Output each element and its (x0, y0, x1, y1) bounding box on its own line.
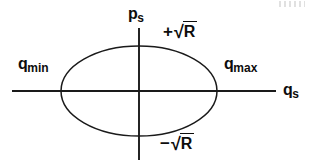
phase-space-diagram: ps qs qmin qmax +√R −√R (0, 0, 309, 166)
scan-artifact (279, 1, 305, 7)
minus-sqrt-r-argument: R (180, 133, 195, 152)
vertical-axis-label-subscript: s (137, 11, 144, 25)
plus-sign: + (163, 22, 173, 41)
q-max-label: qmax (224, 56, 257, 74)
vertical-axis-label: ps (128, 6, 144, 24)
horizontal-axis-label: qs (283, 82, 299, 100)
diagram-canvas (0, 0, 309, 166)
plus-sqrt-r-argument: R (183, 21, 198, 40)
plus-sqrt-r-label: +√R (163, 22, 197, 40)
minus-sqrt-r-label: −√R (160, 134, 194, 152)
q-min-label-subscript: min (27, 61, 48, 75)
minus-sign: − (160, 134, 170, 153)
radical-sign-icon: √ (174, 22, 184, 42)
q-min-label: qmin (18, 56, 49, 74)
horizontal-axis-label-subscript: s (292, 87, 299, 101)
radical-sign-icon: √ (171, 134, 181, 154)
q-max-label-subscript: max (233, 61, 257, 75)
